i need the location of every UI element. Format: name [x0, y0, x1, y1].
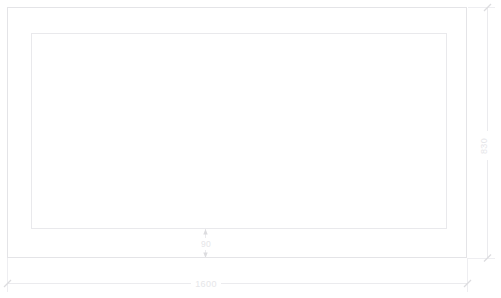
dimension-label-overall-height: 830 — [479, 138, 489, 154]
dimension-label-overall-width: 1600 — [195, 279, 217, 289]
dimension-arrow-bottom-rail-top — [203, 229, 207, 235]
dimension-label-bottom-rail: 90 — [201, 239, 211, 249]
outer-panel-outline — [8, 8, 467, 258]
inner-opening-outline — [32, 34, 447, 229]
drawing-svg: 1600 830 90 — [0, 0, 501, 298]
technical-drawing-canvas: 1600 830 90 — [0, 0, 501, 298]
